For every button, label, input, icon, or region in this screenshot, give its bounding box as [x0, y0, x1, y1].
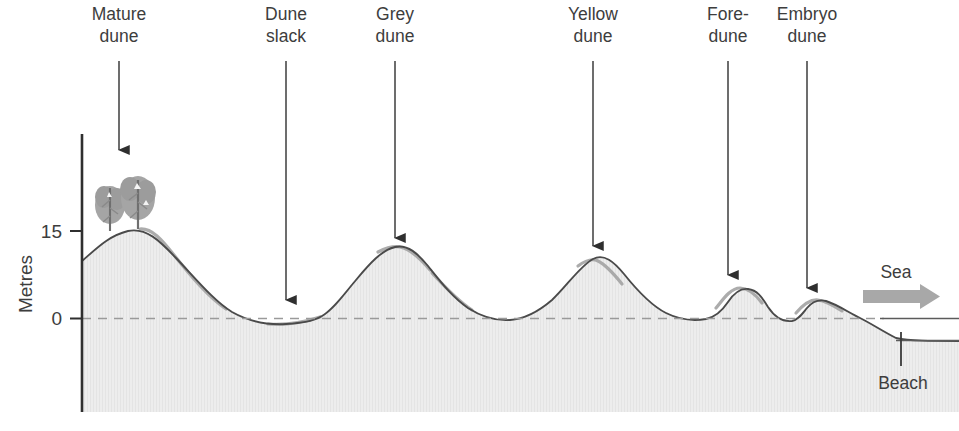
callout-label-line1: Mature [92, 4, 146, 24]
y-axis-tick-label-0: 0 [51, 308, 62, 329]
dune-succession-figure: 15 0 Metres Mature dune Dune slack Grey … [0, 0, 959, 431]
callout-label-line2: dune [574, 26, 613, 46]
callout-label-line2: dune [788, 26, 827, 46]
callout-label-line2: slack [266, 26, 306, 46]
callout-label-line2: dune [709, 26, 748, 46]
callout-label-line1: Yellow [568, 4, 618, 24]
callout-label-line1: Fore- [707, 4, 749, 24]
callout-label-line1: Grey [376, 4, 414, 24]
y-axis-title: Metres [15, 255, 36, 313]
callout-label-line1: Dune [265, 4, 307, 24]
callout-label-line2: dune [376, 26, 415, 46]
callout-label-line1: Embryo [777, 4, 837, 24]
y-axis-tick-label-15: 15 [41, 221, 62, 242]
sea-label: Sea [880, 262, 911, 282]
callout-label-line2: dune [100, 26, 139, 46]
beach-label: Beach [878, 373, 928, 393]
